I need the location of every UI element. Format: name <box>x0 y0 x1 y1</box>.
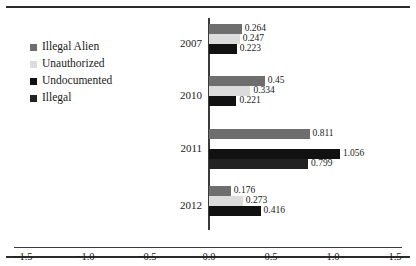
bar[interactable] <box>209 44 237 54</box>
bar[interactable] <box>209 206 261 216</box>
x-tick-label: −1.0 <box>65 252 105 263</box>
bar[interactable] <box>209 24 242 34</box>
chart-figure: Illegal AlienUnauthorizedUndocumentedIll… <box>0 0 416 266</box>
x-tick-label: 0.0 <box>189 252 229 263</box>
plot-area: 0.2640.2470.2230.450.3340.2210.8111.0560… <box>0 16 416 238</box>
bar[interactable] <box>209 34 240 44</box>
bar[interactable] <box>209 159 308 169</box>
category-label: 2011 <box>166 143 202 154</box>
x-tick-label: −1.5 <box>3 252 43 263</box>
bar[interactable] <box>209 196 243 206</box>
x-tick-label: −0.5 <box>127 252 167 263</box>
bar-value-label: 0.416 <box>261 206 285 216</box>
bar[interactable] <box>209 96 236 106</box>
category-label: 2012 <box>166 200 202 211</box>
x-tick-label: 1.0 <box>313 252 353 263</box>
top-rule <box>6 6 410 8</box>
bar[interactable] <box>209 129 310 139</box>
x-tick-label: 0.5 <box>251 252 291 263</box>
bar-value-label: 0.221 <box>236 96 260 106</box>
bar-value-label: 1.056 <box>340 149 364 159</box>
bar-value-label: 0.799 <box>308 159 332 169</box>
bar-value-label: 0.811 <box>310 129 334 139</box>
bar-value-label: 0.223 <box>237 44 261 54</box>
x-tick-label: 1.5 <box>375 252 415 263</box>
bar[interactable] <box>209 186 231 196</box>
category-label: 2010 <box>166 90 202 101</box>
x-axis-line <box>14 247 402 248</box>
category-label: 2007 <box>166 38 202 49</box>
